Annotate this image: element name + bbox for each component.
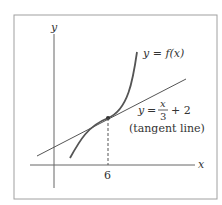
tangent-equation: y = x 3 + 2 [137, 98, 191, 122]
svg-text:3: 3 [160, 111, 166, 122]
svg-text:+ 2: + 2 [171, 104, 191, 117]
x-tick-6: 6 [104, 169, 111, 182]
x-axis-label: x [198, 158, 205, 171]
function-curve [70, 52, 137, 158]
tangent-caption: (tangent line) [129, 122, 205, 135]
curve-label: y = f(x) [142, 47, 184, 60]
svg-text:x: x [160, 98, 166, 109]
svg-text:y: y [137, 104, 145, 117]
svg-text:=: = [147, 104, 156, 117]
y-axis-label: y [50, 21, 58, 34]
tangent-line-diagram: y x 6 y = f(x) y = x 3 + 2 (tangent line… [0, 0, 222, 205]
